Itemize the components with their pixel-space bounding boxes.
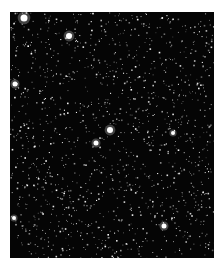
star-field-image xyxy=(10,12,214,258)
star-field-canvas xyxy=(10,12,214,258)
